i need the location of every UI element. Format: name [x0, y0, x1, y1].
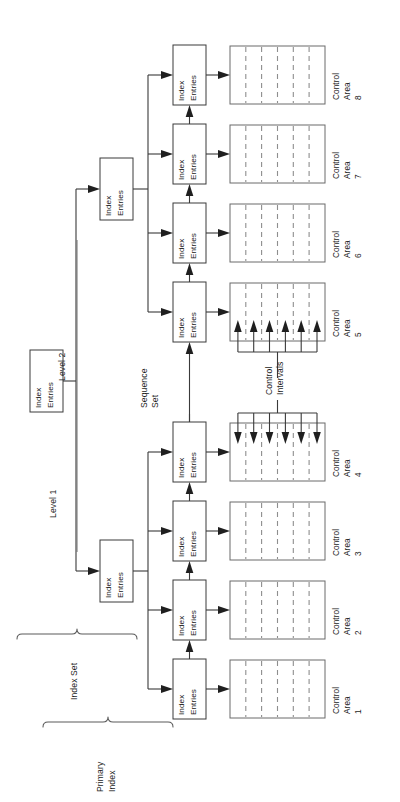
index-entries-label: Entries — [189, 154, 198, 180]
index-entries-label: Entries — [189, 531, 198, 557]
control-area-label: Area — [343, 319, 352, 337]
control-area-label: Control — [332, 152, 341, 179]
control-area-label: Area — [343, 459, 352, 477]
index-set-brace — [17, 629, 137, 639]
control-area-label: Control — [332, 310, 341, 337]
control-area-number: 8 — [354, 95, 363, 100]
index-entries-label: Index — [177, 616, 186, 636]
control-area-3: Control Area 3 — [230, 502, 363, 560]
index-entries-label: Index — [34, 388, 43, 408]
control-area-2: Control Area 2 — [230, 581, 363, 639]
arrow-head — [88, 185, 100, 193]
arrow-head — [161, 448, 173, 456]
arrow-head — [218, 685, 230, 693]
sequence-set-node-1: Index Entries — [173, 640, 230, 719]
control-area-5: Control Area 5 — [230, 283, 363, 352]
sequence-set-node-4: Index Entries — [173, 414, 230, 482]
control-area-4: Control Area 4 — [230, 413, 363, 481]
sequence-set-label: Set — [150, 394, 160, 408]
index-entries-label: Index — [177, 318, 186, 338]
arrow-head — [161, 527, 173, 535]
arrow-head — [218, 527, 230, 535]
arrow-head — [161, 685, 173, 693]
chain-arrow-head — [186, 263, 194, 275]
control-intervals-label: Intervals — [275, 362, 285, 395]
control-area-label: Area — [343, 161, 352, 179]
sequence-set-node-7: Index Entries — [173, 105, 230, 184]
level1-label: Level 1 — [48, 489, 58, 518]
arrow-head — [218, 71, 230, 79]
control-area-label: Area — [343, 696, 352, 714]
vsam-index-diagram: Control Area 8 Control Area 7 — [0, 0, 400, 802]
index-entries-label: Index — [177, 458, 186, 478]
index-set-label: Index Set — [69, 662, 79, 700]
index-entries-label: Index — [177, 695, 186, 715]
index-set-brace-group: Index Set — [17, 629, 137, 700]
index-entries-label: Entries — [189, 610, 198, 636]
index-entries-label: Index — [177, 537, 186, 557]
level1-node-upper: Index Entries — [100, 71, 173, 316]
control-area-label: Control — [332, 450, 341, 477]
arrow-head — [161, 150, 173, 158]
arrow-head — [88, 567, 100, 575]
control-area-number: 4 — [354, 472, 363, 477]
control-area-number: 3 — [354, 551, 363, 556]
index-entries-label: Index — [177, 81, 186, 101]
arrow-head — [218, 448, 230, 456]
chain-arrow-head — [186, 561, 194, 573]
control-area-number: 1 — [354, 709, 363, 714]
control-area-8: Control Area 8 — [230, 46, 363, 104]
arrow-head — [218, 606, 230, 614]
diagram-canvas: Control Area 8 Control Area 7 — [0, 0, 400, 802]
primary-index-brace — [43, 717, 173, 727]
primary-index-label: Primary — [95, 761, 105, 792]
index-entries-label: Entries — [189, 312, 198, 338]
index-entries-label: Entries — [116, 190, 125, 216]
index-entries-label: Index — [104, 578, 113, 598]
control-area-1: Control Area 1 — [230, 660, 363, 718]
index-entries-label: Index — [104, 196, 113, 216]
control-area-number: 7 — [354, 174, 363, 179]
arrow-head — [161, 229, 173, 237]
sequence-set-label-group: Sequence Set — [139, 368, 160, 408]
control-area-label: Area — [343, 240, 352, 258]
sequence-set-group: Index Entries Index Entries Index E — [173, 45, 230, 719]
control-area-group: Control Area 8 Control Area 7 — [230, 46, 363, 718]
arrow-head — [218, 308, 230, 316]
sequence-set-label: Sequence — [139, 368, 149, 408]
control-intervals-label: Control — [264, 367, 274, 395]
primary-index-brace-group: Primary Index — [43, 717, 173, 792]
sequence-set-node-6: Index Entries — [173, 184, 230, 263]
index-entries-label: Entries — [46, 382, 55, 408]
control-area-label: Control — [332, 231, 341, 258]
control-area-label: Control — [332, 529, 341, 556]
control-area-6: Control Area 6 — [230, 204, 363, 262]
control-area-label: Area — [343, 538, 352, 556]
sequence-set-node-3: Index Entries — [173, 482, 230, 561]
index-entries-label: Index — [177, 239, 186, 259]
sequence-set-node-5: Index Entries — [173, 263, 230, 423]
index-entries-label: Entries — [189, 689, 198, 715]
control-area-number: 5 — [354, 332, 363, 337]
index-entries-label: Index — [177, 160, 186, 180]
control-area-label: Control — [332, 687, 341, 714]
control-area-label: Area — [343, 617, 352, 635]
control-area-label: Control — [332, 608, 341, 635]
chain-arrow-head — [186, 105, 194, 117]
control-intervals-callout: Control Intervals — [264, 352, 285, 413]
arrow-head — [161, 71, 173, 79]
level1-group: Index Entries Index Entries — [100, 71, 173, 693]
index-entries-label: Entries — [189, 233, 198, 259]
chain-arrow-head — [186, 482, 194, 494]
level1-node-lower: Index Entries — [100, 448, 173, 693]
arrow-head — [161, 606, 173, 614]
arrow-head — [218, 150, 230, 158]
arrow-head — [218, 229, 230, 237]
sequence-set-node-8: Index Entries — [173, 45, 230, 105]
control-area-number: 2 — [354, 630, 363, 635]
control-area-label: Area — [343, 82, 352, 100]
index-entries-label: Entries — [189, 452, 198, 478]
control-area-7: Control Area 7 — [230, 125, 363, 183]
primary-index-label: Index — [107, 770, 117, 792]
chain-arrow-head — [186, 342, 194, 354]
